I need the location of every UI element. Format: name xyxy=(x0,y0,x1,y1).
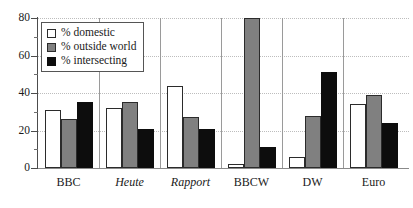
bar-euro-domestic xyxy=(350,104,366,168)
bar-bbcw-outside-world xyxy=(244,18,260,168)
y-tick-40 xyxy=(31,93,38,94)
legend-label-outside-world: % outside world xyxy=(61,41,136,53)
x-axis-label-bbcw: BBCW xyxy=(221,176,282,188)
y-tick-minor-10 xyxy=(34,149,38,150)
bar-heute-domestic xyxy=(106,108,122,168)
bar-rapport-outside-world xyxy=(183,117,199,168)
x-axis-label-heute: Heute xyxy=(99,176,160,188)
white-square-swatch-icon xyxy=(47,29,56,38)
gridline-40 xyxy=(38,93,409,94)
y-tick-minor-30 xyxy=(34,112,38,113)
group-separator-2 xyxy=(160,18,161,168)
y-tick-minor-70 xyxy=(34,37,38,38)
bar-heute-intersecting xyxy=(138,129,154,168)
y-tick-label-80: 80 xyxy=(2,12,30,24)
x-axis-label-dw: DW xyxy=(282,176,343,188)
legend-item-intersecting: % intersecting xyxy=(47,54,136,68)
bar-dw-domestic xyxy=(289,157,305,168)
gridline-80 xyxy=(38,18,409,19)
x-axis-label-rapport: Rapport xyxy=(160,176,221,188)
group-separator-4 xyxy=(282,18,283,168)
y-tick-label-60: 60 xyxy=(2,50,30,62)
y-tick-0 xyxy=(31,168,38,169)
legend-item-outside-world: % outside world xyxy=(47,40,136,54)
x-axis-label-bbc: BBC xyxy=(38,176,99,188)
bar-bbcw-domestic xyxy=(228,164,244,168)
group-separator-3 xyxy=(221,18,222,168)
group-separator-5 xyxy=(343,18,344,168)
y-tick-label-20: 20 xyxy=(2,125,30,137)
y-tick-minor-50 xyxy=(34,74,38,75)
bar-heute-outside-world xyxy=(122,102,138,168)
y-tick-20 xyxy=(31,131,38,132)
legend-item-domestic: % domestic xyxy=(47,26,136,40)
black-square-swatch-icon xyxy=(47,57,56,66)
chart-legend: % domestic % outside world % intersectin… xyxy=(41,22,144,72)
y-tick-60 xyxy=(31,56,38,57)
bar-euro-intersecting xyxy=(382,123,398,168)
y-tick-80 xyxy=(31,18,38,19)
bar-dw-intersecting xyxy=(321,72,337,168)
bar-bbc-domestic xyxy=(45,110,61,168)
bar-rapport-domestic xyxy=(167,86,183,169)
y-tick-label-40: 40 xyxy=(2,87,30,99)
legend-label-intersecting: % intersecting xyxy=(61,55,127,67)
bar-bbc-outside-world xyxy=(61,119,77,168)
x-axis-line xyxy=(37,168,409,169)
bar-dw-outside-world xyxy=(305,116,321,169)
bar-rapport-intersecting xyxy=(199,129,215,168)
legend-label-domestic: % domestic xyxy=(61,27,115,39)
gray-square-swatch-icon xyxy=(47,43,56,52)
bar-euro-outside-world xyxy=(366,95,382,168)
bar-bbc-intersecting xyxy=(77,102,93,168)
bar-chart: 80 60 40 20 0 BBCHeuteRapportBBCWDWEuro … xyxy=(0,0,413,208)
bar-bbcw-intersecting xyxy=(260,147,276,168)
x-axis-label-euro: Euro xyxy=(343,176,404,188)
y-tick-label-0: 0 xyxy=(2,162,30,174)
